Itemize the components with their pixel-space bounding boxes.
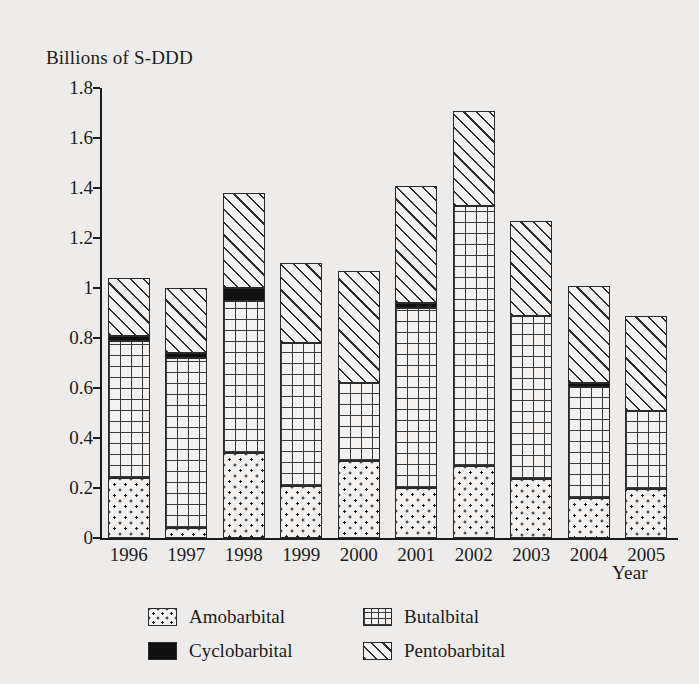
y-axis-tick bbox=[93, 487, 100, 489]
bar-2002[interactable] bbox=[453, 88, 495, 538]
bar-segment-cyclobarbital-1997[interactable] bbox=[165, 353, 207, 358]
y-axis-tick bbox=[93, 387, 100, 389]
bar-segment-cyclobarbital-2001[interactable] bbox=[395, 303, 437, 308]
bar-segment-amobarbital-2004[interactable] bbox=[568, 498, 610, 538]
bar-segment-cyclobarbital-1996[interactable] bbox=[108, 336, 150, 341]
chart-legend: AmobarbitalButalbitalCyclobarbitalPentob… bbox=[148, 600, 568, 668]
x-axis-tick-label-1996: 1996 bbox=[100, 544, 158, 566]
plot-area bbox=[100, 88, 675, 538]
y-axis-tick-label: 1.8 bbox=[69, 77, 93, 99]
y-axis-tick-label: 0.8 bbox=[69, 327, 93, 349]
bar-2004[interactable] bbox=[568, 88, 610, 538]
bar-2005[interactable] bbox=[625, 88, 667, 538]
bar-1996[interactable] bbox=[108, 88, 150, 538]
bar-segment-amobarbital-1997[interactable] bbox=[165, 528, 207, 538]
bar-1997[interactable] bbox=[165, 88, 207, 538]
y-axis-tick bbox=[93, 537, 100, 539]
bar-segment-butalbital-2000[interactable] bbox=[338, 383, 380, 461]
legend-item-pentobarbital[interactable]: Pentobarbital bbox=[363, 640, 505, 662]
x-axis-tick-label-2003: 2003 bbox=[503, 544, 561, 566]
bar-segment-pentobarbital-1996[interactable] bbox=[108, 278, 150, 336]
bar-segment-amobarbital-1996[interactable] bbox=[108, 478, 150, 538]
bar-segment-pentobarbital-2000[interactable] bbox=[338, 271, 380, 384]
legend-swatch-cyclobarbital-icon bbox=[148, 642, 177, 660]
legend-label-butalbital: Butalbital bbox=[404, 606, 479, 628]
y-axis-tick-label: 0 bbox=[84, 527, 94, 549]
y-axis-tick bbox=[93, 87, 100, 89]
bar-segment-butalbital-2004[interactable] bbox=[568, 387, 610, 498]
x-axis-title: Year bbox=[612, 562, 648, 584]
y-axis-tick-label: 1.2 bbox=[69, 227, 93, 249]
y-axis-tick-label: 0.2 bbox=[69, 477, 93, 499]
bar-segment-amobarbital-2005[interactable] bbox=[625, 489, 667, 538]
legend-label-cyclobarbital: Cyclobarbital bbox=[189, 640, 292, 662]
bar-2001[interactable] bbox=[395, 88, 437, 538]
legend-row: CyclobarbitalPentobarbital bbox=[148, 634, 568, 668]
legend-item-amobarbital[interactable]: Amobarbital bbox=[148, 606, 363, 628]
bar-segment-amobarbital-1998[interactable] bbox=[223, 453, 265, 538]
legend-label-pentobarbital: Pentobarbital bbox=[404, 640, 505, 662]
bar-segment-amobarbital-2001[interactable] bbox=[395, 488, 437, 538]
stacked-bar-chart: Billions of S-DDD 00.20.40.60.811.21.41.… bbox=[0, 0, 699, 684]
legend-row: AmobarbitalButalbital bbox=[148, 600, 568, 634]
bar-segment-butalbital-1997[interactable] bbox=[165, 358, 207, 528]
x-axis-tick-label-1997: 1997 bbox=[158, 544, 216, 566]
x-axis-line bbox=[100, 538, 678, 540]
y-axis-title: Billions of S-DDD bbox=[46, 47, 193, 69]
y-axis-tick bbox=[93, 187, 100, 189]
bar-2003[interactable] bbox=[510, 88, 552, 538]
legend-swatch-butalbital-icon bbox=[363, 608, 392, 626]
bar-1998[interactable] bbox=[223, 88, 265, 538]
y-axis-tick-label: 0.4 bbox=[69, 427, 93, 449]
bar-segment-butalbital-2002[interactable] bbox=[453, 206, 495, 466]
x-axis-tick-label-2004: 2004 bbox=[560, 544, 618, 566]
bar-1999[interactable] bbox=[280, 88, 322, 538]
legend-swatch-pentobarbital-icon bbox=[363, 642, 392, 660]
y-axis-tick bbox=[93, 237, 100, 239]
bar-segment-amobarbital-2003[interactable] bbox=[510, 479, 552, 538]
bar-segment-butalbital-2005[interactable] bbox=[625, 411, 667, 490]
bar-segment-pentobarbital-1997[interactable] bbox=[165, 288, 207, 353]
bar-segment-butalbital-1999[interactable] bbox=[280, 343, 322, 486]
bar-segment-pentobarbital-1999[interactable] bbox=[280, 263, 322, 343]
x-axis-tick-label-2000: 2000 bbox=[330, 544, 388, 566]
bar-segment-pentobarbital-2003[interactable] bbox=[510, 221, 552, 316]
bar-2000[interactable] bbox=[338, 88, 380, 538]
y-axis-tick bbox=[93, 137, 100, 139]
bar-segment-butalbital-2001[interactable] bbox=[395, 308, 437, 488]
bar-segment-pentobarbital-2001[interactable] bbox=[395, 186, 437, 304]
x-axis-tick-label-1998: 1998 bbox=[215, 544, 273, 566]
legend-label-amobarbital: Amobarbital bbox=[189, 606, 285, 628]
x-axis-tick-label-1999: 1999 bbox=[273, 544, 331, 566]
bar-segment-pentobarbital-2005[interactable] bbox=[625, 316, 667, 411]
y-axis-tick-label: 1.4 bbox=[69, 177, 93, 199]
legend-item-cyclobarbital[interactable]: Cyclobarbital bbox=[148, 640, 363, 662]
y-axis-tick bbox=[93, 337, 100, 339]
y-axis-tick bbox=[93, 287, 100, 289]
bar-segment-pentobarbital-2002[interactable] bbox=[453, 111, 495, 206]
bar-segment-amobarbital-2000[interactable] bbox=[338, 461, 380, 539]
bar-segment-cyclobarbital-2004[interactable] bbox=[568, 383, 610, 387]
y-axis-tick-label: 0.6 bbox=[69, 377, 93, 399]
y-axis-tick bbox=[93, 437, 100, 439]
x-axis-tick-label-2001: 2001 bbox=[388, 544, 446, 566]
bar-segment-pentobarbital-2004[interactable] bbox=[568, 286, 610, 384]
bar-segment-butalbital-1998[interactable] bbox=[223, 301, 265, 454]
bar-segment-butalbital-2003[interactable] bbox=[510, 316, 552, 480]
legend-item-butalbital[interactable]: Butalbital bbox=[363, 606, 479, 628]
x-axis-tick-label-2002: 2002 bbox=[445, 544, 503, 566]
bar-segment-butalbital-1996[interactable] bbox=[108, 341, 150, 479]
y-axis-tick-label: 1 bbox=[84, 277, 94, 299]
bar-segment-pentobarbital-1998[interactable] bbox=[223, 193, 265, 288]
legend-swatch-amobarbital-icon bbox=[148, 608, 177, 626]
y-axis-tick-label: 1.6 bbox=[69, 127, 93, 149]
bar-segment-amobarbital-2002[interactable] bbox=[453, 466, 495, 539]
bar-segment-cyclobarbital-1998[interactable] bbox=[223, 288, 265, 301]
bar-segment-amobarbital-1999[interactable] bbox=[280, 486, 322, 539]
